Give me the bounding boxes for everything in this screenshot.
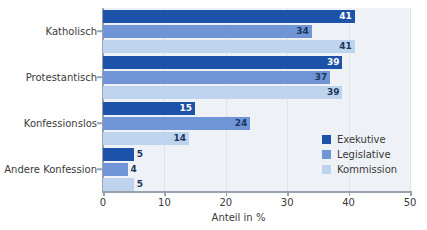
bar-fill [103,10,355,23]
bar-value-label: 39 [327,87,340,97]
legend-label: Legislative [337,149,391,160]
bar: 34 [103,25,312,38]
bar-chart: 413441393739152414545 KatholischProtesta… [0,0,427,230]
legend-item: Legislative [322,147,397,162]
bar-fill [103,148,134,161]
x-axis-tick-mark [103,191,105,196]
bar: 24 [103,117,250,130]
category-tick [97,76,103,78]
legend-swatch [322,135,331,144]
legend-swatch [322,150,331,159]
bar-fill [103,25,312,38]
x-axis-line [102,191,411,193]
x-axis-tick-mark [349,191,351,196]
bar: 41 [103,10,355,23]
bar-fill [103,56,342,69]
bar: 5 [103,148,134,161]
bar-value-label: 5 [137,179,143,189]
bar-fill [103,163,128,176]
x-axis-tick-label: 50 [404,197,417,208]
bar-value-label: 41 [339,11,352,21]
legend-swatch [322,165,331,174]
x-axis-tick-label: 30 [281,197,294,208]
x-axis-tick-label: 10 [158,197,171,208]
bar-value-label: 24 [235,118,248,128]
category-label: Protestantisch [0,72,97,83]
x-axis-title: Anteil in % [0,212,427,223]
gridline [410,8,411,192]
x-axis-tick-mark [410,191,412,196]
bar-fill [103,40,355,53]
legend-item: Kommission [322,162,397,177]
x-axis-tick-label: 40 [342,197,355,208]
bar-value-label: 41 [339,41,352,51]
bar-value-label: 5 [137,149,143,159]
x-axis-title-label: Anteil in % [212,212,266,223]
bar-fill [103,86,342,99]
bar-fill [103,178,134,191]
x-axis-tick-mark [226,191,228,196]
bar-value-label: 15 [180,103,193,113]
bar: 41 [103,40,355,53]
category-tick [97,168,103,170]
bar: 4 [103,163,128,176]
x-axis-tick-label: 20 [219,197,232,208]
category-label: Katholisch [0,26,97,37]
bar-fill [103,71,330,84]
bar: 14 [103,132,189,145]
bar: 39 [103,56,342,69]
legend: ExekutiveLegislativeKommission [322,132,397,177]
category-tick [97,122,103,124]
legend-item: Exekutive [322,132,397,147]
bar: 15 [103,102,195,115]
bar: 37 [103,71,330,84]
bar-value-label: 14 [173,133,186,143]
bar-value-label: 34 [296,26,309,36]
legend-label: Exekutive [337,134,386,145]
x-axis-tick-label: 0 [100,197,106,208]
bar-fill [103,117,250,130]
legend-label: Kommission [337,164,397,175]
bar: 39 [103,86,342,99]
x-axis-tick-mark [164,191,166,196]
category-label: Konfessionslos [0,118,97,129]
bar-value-label: 37 [315,72,328,82]
category-label: Andere Konfession [0,164,97,175]
bar-value-label: 39 [327,57,340,67]
x-axis-tick-mark [287,191,289,196]
category-tick [97,30,103,32]
bar: 5 [103,178,134,191]
bar-value-label: 4 [131,164,137,174]
